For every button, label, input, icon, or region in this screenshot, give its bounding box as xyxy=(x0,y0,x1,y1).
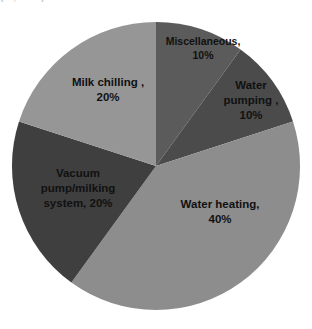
label-vacuum-value: system, 20% xyxy=(28,196,128,211)
label-water-heating-name: Water heating, xyxy=(166,197,274,212)
label-miscellaneous-value: 10% xyxy=(160,48,246,62)
label-water-heating-value: 40% xyxy=(166,212,274,227)
label-vacuum-line1: Vacuum xyxy=(28,166,128,181)
label-water-pumping-value: 10% xyxy=(215,108,287,123)
label-milk-chilling-name: Milk chilling , xyxy=(58,75,158,90)
label-water-heating: Water heating, 40% xyxy=(166,197,274,227)
label-water-pumping: Water pumping , 10% xyxy=(215,78,287,123)
pie-chart xyxy=(0,0,312,329)
label-miscellaneous: Miscellaneous, 10% xyxy=(160,34,246,62)
label-water-pumping-line2: pumping , xyxy=(215,93,287,108)
label-milk-chilling-value: 20% xyxy=(58,90,158,105)
label-vacuum-line2: pump/milking xyxy=(28,181,128,196)
label-milk-chilling: Milk chilling , 20% xyxy=(58,75,158,105)
label-vacuum-pump: Vacuum pump/milking system, 20% xyxy=(28,166,128,211)
label-water-pumping-line1: Water xyxy=(215,78,287,93)
label-miscellaneous-name: Miscellaneous, xyxy=(160,34,246,48)
